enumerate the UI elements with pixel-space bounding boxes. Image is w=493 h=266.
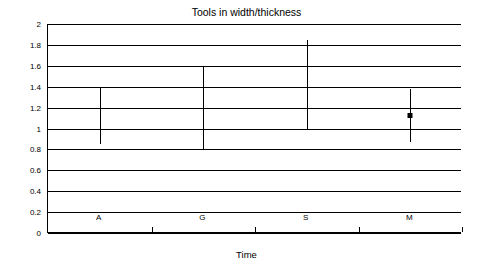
gridline bbox=[48, 170, 461, 171]
y-axis-tick-label: 1.4 bbox=[3, 82, 41, 91]
data-point-marker bbox=[408, 113, 413, 118]
x-axis-label: Time bbox=[0, 249, 493, 260]
gridline bbox=[48, 87, 461, 88]
y-axis-tick-label: 0.6 bbox=[3, 166, 41, 175]
x-axis-tick bbox=[359, 227, 360, 232]
x-axis-tick-label: S bbox=[286, 213, 326, 222]
gridline bbox=[48, 129, 461, 130]
y-axis-tick-label: 1.8 bbox=[3, 40, 41, 49]
x-axis-tick-label: A bbox=[79, 213, 119, 222]
y-axis-tick-label: 0 bbox=[3, 229, 41, 238]
y-axis-tick-label: 2 bbox=[3, 20, 41, 29]
gridline bbox=[48, 66, 461, 67]
chart-title: Tools in width/thickness bbox=[0, 6, 493, 18]
gridline bbox=[48, 45, 461, 46]
y-axis-tick-label: 0.4 bbox=[3, 187, 41, 196]
y-axis-tick-label: 1 bbox=[3, 124, 41, 133]
data-range-bar bbox=[203, 66, 204, 151]
x-axis-tick bbox=[462, 227, 463, 232]
plot-area bbox=[47, 24, 461, 233]
y-axis-tick-label: 1.6 bbox=[3, 61, 41, 70]
y-axis-tick-label: 1.2 bbox=[3, 103, 41, 112]
chart-container: Tools in width/thickness Ratio Time 00.2… bbox=[0, 0, 493, 266]
data-range-bar bbox=[100, 87, 101, 144]
x-axis-tick bbox=[255, 227, 256, 232]
gridline bbox=[48, 149, 461, 150]
gridline bbox=[48, 233, 461, 234]
gridline bbox=[48, 108, 461, 109]
gridline bbox=[48, 191, 461, 192]
x-axis-tick-label: G bbox=[182, 213, 222, 222]
x-axis-tick-label: M bbox=[389, 213, 429, 222]
gridline bbox=[48, 24, 461, 25]
x-axis-tick bbox=[152, 227, 153, 232]
y-axis-tick-label: 0.8 bbox=[3, 145, 41, 154]
data-range-bar bbox=[307, 40, 308, 130]
y-axis-tick-label: 0.2 bbox=[3, 208, 41, 217]
